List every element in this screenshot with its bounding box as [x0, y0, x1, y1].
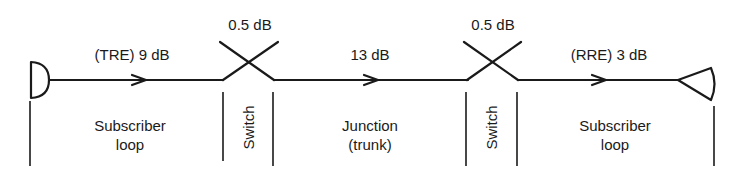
- junction-label: Junction (trunk): [300, 116, 440, 154]
- transmitter-icon: [31, 62, 49, 98]
- switch-2-cross-icon: [464, 42, 521, 80]
- subscriber-loop-2-label: Subscriber loop: [545, 116, 685, 154]
- rre-loss-label: (RRE) 3 dB: [553, 46, 665, 63]
- receiver-icon: [678, 68, 715, 100]
- subscriber-loop-1-label: Subscriber loop: [60, 116, 200, 154]
- junction-loss-label: 13 dB: [342, 46, 398, 63]
- switch-2-loss-label: 0.5 dB: [461, 16, 525, 33]
- switch-1-cross-icon: [220, 42, 278, 80]
- switch-1-loss-label: 0.5 dB: [218, 16, 282, 33]
- switch-2-label: Switch: [483, 103, 500, 153]
- switch-1-label: Switch: [240, 103, 257, 153]
- tre-loss-label: (TRE) 9 dB: [80, 46, 184, 63]
